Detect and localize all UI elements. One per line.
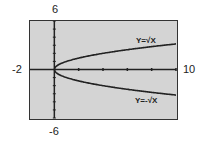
xmax-label: 10 — [183, 64, 195, 75]
series-label-negative: Y=-√X — [135, 97, 157, 105]
series-label-positive: Y=√X — [136, 37, 156, 45]
curve — [54, 44, 176, 70]
graph-screen — [29, 20, 178, 120]
plot-area — [30, 21, 179, 121]
xmin-label: -2 — [12, 64, 22, 75]
ymin-label: -6 — [49, 126, 59, 137]
ymax-label: 6 — [52, 4, 58, 15]
curve — [54, 70, 176, 96]
